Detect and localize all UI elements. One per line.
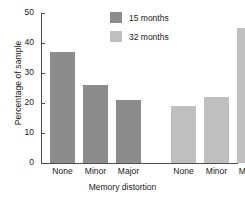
y-axis-tick-label: 50 <box>25 7 34 17</box>
x-axis-tick-label: Major <box>110 166 147 176</box>
y-axis-tick-mark <box>41 103 45 104</box>
legend-label: 32 months <box>129 32 169 42</box>
legend: 15 months32 months <box>110 10 169 48</box>
bar-chart: Percentage of sample 01020304050 NoneMin… <box>0 0 245 197</box>
y-axis-tick-mark <box>41 133 45 134</box>
y-axis-tick-label: 0 <box>29 157 34 167</box>
x-axis-title: Memory distortion <box>0 182 245 192</box>
y-axis-tick: 10 <box>15 133 41 134</box>
legend-label: 15 months <box>129 13 169 23</box>
y-axis-tick-mark <box>41 163 45 164</box>
x-axis-tick-label: Minor <box>198 166 235 176</box>
y-axis-tick: 40 <box>15 43 41 44</box>
y-axis-tick-label: 30 <box>25 67 34 77</box>
x-axis-tick-label: Minor <box>77 166 114 176</box>
legend-item: 32 months <box>110 29 169 44</box>
y-axis-tick: 0 <box>15 163 41 164</box>
bar <box>50 52 75 163</box>
y-axis-line <box>41 13 42 164</box>
bar <box>83 85 108 163</box>
y-axis-tick-label: 20 <box>25 97 34 107</box>
x-axis-tick-label: Major <box>231 166 245 176</box>
bar <box>237 28 245 163</box>
legend-item: 15 months <box>110 10 169 25</box>
bar <box>204 97 229 163</box>
y-axis-tick-mark <box>41 13 45 14</box>
x-axis-tick-label: None <box>44 166 81 176</box>
y-axis-tick: 20 <box>15 103 41 104</box>
legend-swatch <box>110 31 122 42</box>
legend-swatch <box>110 12 122 23</box>
x-axis-tick-label: None <box>165 166 202 176</box>
y-axis-tick-mark <box>41 73 45 74</box>
x-axis-line <box>41 163 238 164</box>
y-axis-tick-label: 10 <box>25 127 34 137</box>
y-axis-tick: 30 <box>15 73 41 74</box>
y-axis-tick-mark <box>41 43 45 44</box>
y-axis-tick: 50 <box>15 13 41 14</box>
bar <box>171 106 196 163</box>
y-axis-tick-label: 40 <box>25 37 34 47</box>
y-axis-title: Percentage of sample <box>13 18 23 148</box>
bar <box>116 100 141 163</box>
